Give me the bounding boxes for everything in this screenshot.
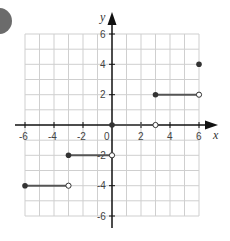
x-tick-label: -6 (19, 131, 28, 142)
closed-point (109, 122, 115, 128)
y-tick-label: 4 (100, 59, 106, 70)
y-tick-label: 6 (100, 29, 106, 40)
x-tick-label: 6 (196, 131, 202, 142)
x-tick-label: 4 (167, 131, 173, 142)
x-tick-label: 2 (138, 131, 144, 142)
x-tick-label: -4 (48, 131, 57, 142)
y-tick-label: -6 (97, 211, 106, 222)
y-axis-label: y (99, 10, 106, 24)
open-point (109, 153, 114, 158)
x-axis-label: x (212, 128, 219, 142)
open-point (66, 183, 71, 188)
closed-point (196, 62, 202, 68)
coordinate-plane: y x -6 -4 -2 0 2 4 6 6 4 2 -2 -4 -6 (0, 0, 230, 241)
y-tick-label: 2 (100, 89, 106, 100)
y-axis-arrow-icon (108, 12, 117, 25)
y-tick-label: -4 (97, 180, 106, 191)
closed-point (22, 183, 28, 189)
x-tick-label: -2 (77, 131, 86, 142)
closed-point (66, 153, 72, 159)
open-point (196, 92, 201, 97)
closed-point (153, 92, 159, 98)
origin-label: 0 (104, 131, 110, 142)
open-point (153, 122, 158, 127)
